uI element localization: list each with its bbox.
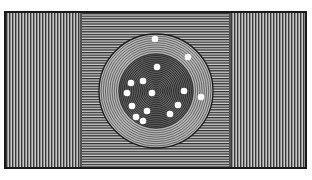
white-dot	[128, 80, 135, 87]
white-dot	[154, 64, 161, 71]
white-dot	[140, 118, 147, 125]
engraving-figure	[0, 0, 312, 180]
white-dot	[175, 102, 182, 109]
white-dot	[129, 103, 136, 110]
white-dot	[185, 54, 192, 61]
white-dot	[181, 88, 188, 95]
white-dot	[198, 94, 205, 101]
white-dot	[167, 111, 174, 118]
white-dot	[149, 90, 156, 97]
white-dot	[140, 78, 147, 85]
left-panel	[6, 13, 80, 167]
white-dot	[133, 114, 140, 121]
white-dot	[144, 108, 151, 115]
white-dot	[152, 36, 159, 43]
white-dot	[124, 90, 131, 97]
right-panel	[231, 13, 305, 167]
target-disc	[99, 34, 213, 148]
